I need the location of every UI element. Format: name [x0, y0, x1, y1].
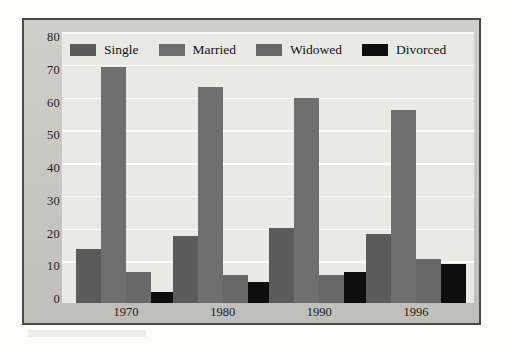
x-tick-label-1996: 1996	[366, 305, 466, 320]
bar-single-1990[interactable]	[269, 228, 294, 303]
x-axis: 1970198019901996	[62, 305, 474, 323]
y-axis: 01020304050607080	[28, 26, 60, 306]
bar-divorced-1996[interactable]	[441, 264, 466, 303]
bar-widowed-1996[interactable]	[416, 259, 441, 303]
bar-single-1996[interactable]	[366, 234, 391, 303]
bar-married-1996[interactable]	[391, 110, 416, 303]
y-tick-label: 50	[30, 129, 60, 142]
y-tick-label: 60	[30, 97, 60, 110]
bar-married-1970[interactable]	[101, 67, 126, 303]
bar-married-1980[interactable]	[198, 87, 223, 303]
x-tick-label-1990: 1990	[269, 305, 369, 320]
plot-area: SingleMarriedWidowedDivorced	[62, 32, 474, 303]
bar-widowed-1980[interactable]	[223, 275, 248, 303]
bar-single-1970[interactable]	[76, 249, 101, 303]
y-tick-label: 40	[30, 162, 60, 175]
y-tick-label: 20	[30, 228, 60, 241]
y-tick-label: 70	[30, 64, 60, 77]
y-tick-label: 10	[30, 260, 60, 273]
bar-married-1990[interactable]	[294, 98, 319, 303]
bar-group-1990	[269, 41, 369, 303]
y-tick-label: 80	[30, 31, 60, 44]
bar-widowed-1990[interactable]	[319, 275, 344, 303]
chart-panel: 01020304050607080 SingleMarriedWidowedDi…	[22, 18, 481, 325]
bar-single-1980[interactable]	[173, 236, 198, 303]
x-tick-label-1970: 1970	[76, 305, 176, 320]
bar-group-1996	[366, 41, 466, 303]
bar-widowed-1970[interactable]	[126, 272, 151, 303]
x-tick-label-1980: 1980	[173, 305, 273, 320]
bar-groups	[62, 32, 474, 303]
bar-group-1980	[173, 41, 273, 303]
y-tick-label: 30	[30, 195, 60, 208]
y-tick-label: 0	[30, 293, 60, 306]
scan-artifact	[28, 330, 146, 337]
figure-page: 01020304050607080 SingleMarriedWidowedDi…	[0, 0, 505, 346]
bar-group-1970	[76, 41, 176, 303]
